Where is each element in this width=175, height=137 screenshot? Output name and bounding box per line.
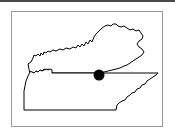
state-outline-tennessee[interactable] <box>24 69 158 110</box>
location-marker-dot[interactable] <box>94 70 105 81</box>
state-outlines <box>24 24 158 110</box>
locator-map-figure <box>0 0 175 137</box>
map-canvas <box>0 0 175 137</box>
state-outline-kentucky[interactable] <box>28 24 144 73</box>
